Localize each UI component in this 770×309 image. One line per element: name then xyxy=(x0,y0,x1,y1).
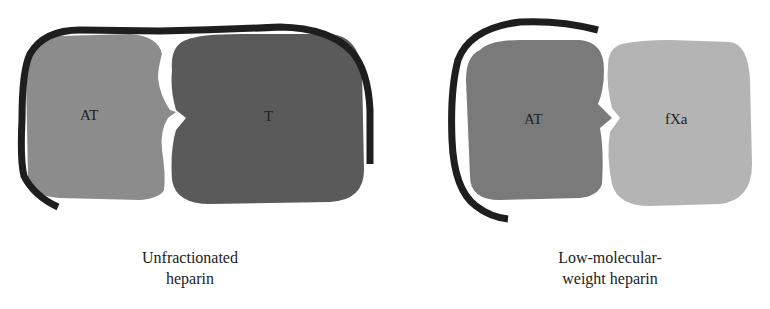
fxa-label: fXa xyxy=(665,111,688,127)
caption-right-line1: Low-molecular- xyxy=(530,247,690,268)
unfractionated-heparin-panel: AT T xyxy=(21,27,370,207)
antithrombin-shape xyxy=(26,34,176,200)
thrombin-label: T xyxy=(264,108,273,124)
caption-left-line1: Unfractionated xyxy=(110,247,270,268)
caption-left-line2: heparin xyxy=(110,268,270,289)
lmwh-panel: AT fXa xyxy=(452,22,752,219)
caption-unfractionated: Unfractionated heparin xyxy=(110,247,270,289)
at-label-left: AT xyxy=(80,107,98,123)
caption-right-line2: weight heparin xyxy=(530,268,690,289)
caption-lmwh: Low-molecular- weight heparin xyxy=(530,247,690,289)
at-label-right: AT xyxy=(524,111,542,127)
